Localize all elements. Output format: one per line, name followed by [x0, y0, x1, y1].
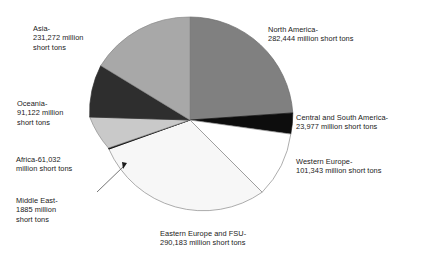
slice-label-asia: Asia- 231,272 million short tons: [33, 24, 125, 52]
slice-label-oceania: Oceania- 91,122 million short tons: [17, 99, 101, 127]
slice-label-africa: Africa-61,032 million short tons: [16, 155, 102, 174]
slice-label-middle-east: Middle East- 1885 million short tons: [16, 196, 94, 224]
slice-label-north-america: North America- 282,444 million short ton…: [268, 25, 413, 44]
slice-label-eastern-europe-fsu: Eastern Europe and FSU- 290,183 million …: [160, 229, 320, 248]
pie-chart: North America- 282,444 million short ton…: [0, 0, 423, 263]
slice-label-western-europe: Western Europe- 101,343 million short to…: [296, 157, 418, 176]
slice-label-central-south-america: Central and South America- 23,977 millio…: [296, 113, 422, 132]
